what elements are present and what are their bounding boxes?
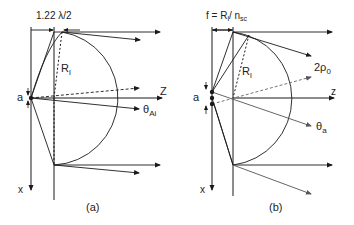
source-point	[210, 90, 214, 94]
source-point	[210, 102, 214, 106]
z-axis-label: z	[331, 86, 336, 97]
radius-label: R	[242, 65, 250, 77]
panel-a: 1.22 λ/2 Rl a Z x θAi (a)	[17, 10, 167, 213]
x-axis-label: x	[200, 184, 205, 195]
divergence-label: 2ρ	[314, 61, 326, 73]
source-point	[210, 96, 214, 100]
focal-dimension-label: f = Rl/ nsc	[206, 10, 248, 22]
x-axis-label: x	[18, 184, 23, 195]
caption-b: (b)	[269, 201, 282, 213]
svg-text:Rl: Rl	[242, 65, 252, 80]
dimension-label: 1.22 λ/2	[36, 10, 72, 21]
source-size-label: a	[193, 91, 200, 103]
svg-text:θAi: θAi	[143, 103, 156, 118]
svg-text:θa: θa	[316, 120, 327, 135]
lens-diagram: 1.22 λ/2 Rl a Z x θAi (a)	[0, 0, 354, 225]
svg-text:2ρ0: 2ρ0	[314, 61, 331, 76]
svg-text:Rl: Rl	[61, 62, 71, 77]
z-axis-label: Z	[160, 85, 167, 97]
radius-label: R	[61, 62, 69, 74]
caption-a: (a)	[86, 201, 99, 213]
panel-b: f = Rl/ nsc Rl 2ρ0 a z x θa (b)	[193, 10, 336, 213]
source-point	[29, 96, 33, 100]
source-size-label: a	[17, 91, 24, 103]
